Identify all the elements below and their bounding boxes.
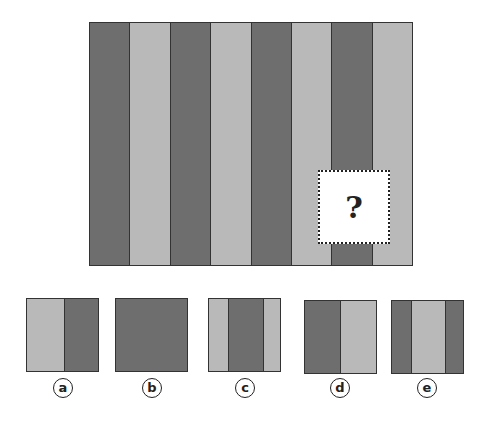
segment-light xyxy=(412,301,446,373)
segment-light xyxy=(209,299,229,371)
option-b-tile[interactable] xyxy=(115,298,188,372)
option-b-label[interactable]: b xyxy=(142,378,162,398)
missing-piece-box: ? xyxy=(318,170,390,244)
option-a-label[interactable]: a xyxy=(53,378,73,398)
segment-light xyxy=(27,299,65,371)
segment-light xyxy=(341,301,376,373)
segment-dark xyxy=(116,299,187,371)
stripe-dark xyxy=(90,23,130,265)
option-d-label[interactable]: d xyxy=(330,378,350,398)
option-c-label[interactable]: c xyxy=(235,378,255,398)
segment-dark xyxy=(392,301,412,373)
question-mark: ? xyxy=(345,190,363,225)
option-e-tile[interactable] xyxy=(391,300,464,374)
segment-dark xyxy=(305,301,341,373)
segment-dark xyxy=(65,299,98,371)
option-d-tile[interactable] xyxy=(304,300,377,374)
segment-light xyxy=(264,299,280,371)
stripe-dark xyxy=(252,23,292,265)
option-a-tile[interactable] xyxy=(26,298,99,372)
option-e-label[interactable]: e xyxy=(417,378,437,398)
stripe-dark xyxy=(171,23,211,265)
segment-dark xyxy=(446,301,463,373)
stripe-light xyxy=(130,23,170,265)
segment-dark xyxy=(229,299,264,371)
option-c-tile[interactable] xyxy=(208,298,281,372)
stripe-light xyxy=(211,23,251,265)
